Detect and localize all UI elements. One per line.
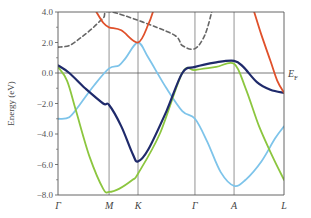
y-tick-label: 4.0 <box>42 7 54 17</box>
y-tick-label: −6.0 <box>37 160 54 170</box>
y-tick-label: 0.0 <box>42 68 54 78</box>
band-curves <box>58 11 284 192</box>
k-point-label: M <box>104 200 114 211</box>
k-point-label: A <box>230 200 238 211</box>
band-structure-chart: 4.02.00.0−2.0−4.0−6.0−8.0ΓMKΓALEnergy (e… <box>0 0 311 218</box>
k-point-label: Γ <box>54 200 61 211</box>
axis-labels: 4.02.00.0−2.0−4.0−6.0−8.0ΓMKΓALEnergy (e… <box>6 7 298 211</box>
y-tick-label: −8.0 <box>37 190 54 200</box>
y-axis-title: Energy (eV) <box>6 81 16 126</box>
k-point-label: K <box>134 200 143 211</box>
k-point-label: L <box>280 200 287 211</box>
fermi-level-label: EF <box>287 68 298 82</box>
red-band-right-curve <box>254 12 284 93</box>
y-tick-label: 2.0 <box>42 38 54 48</box>
y-tick-label: −4.0 <box>37 129 54 139</box>
y-tick-label: −2.0 <box>37 99 54 109</box>
green-band-curve <box>58 63 284 193</box>
dark-blue-band-curve <box>58 61 284 162</box>
k-point-label: Γ <box>191 200 198 211</box>
